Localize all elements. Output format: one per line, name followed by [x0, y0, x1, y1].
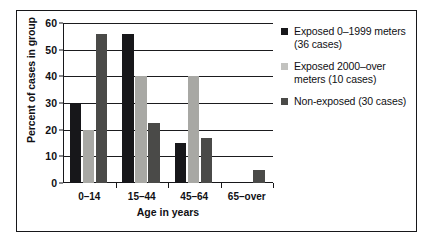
bar — [135, 76, 147, 183]
bar — [253, 170, 265, 183]
x-axis-tick-label: 0–14 — [78, 191, 100, 202]
plot-area: 0102030405060 0–1415–4445–6465–over — [63, 23, 273, 183]
legend-item-label: Exposed 2000–overmeters (10 cases) — [294, 60, 386, 86]
legend-item: Exposed 0–1999 meters(36 cases) — [281, 25, 411, 51]
bar — [122, 34, 134, 183]
bar-group — [63, 23, 116, 183]
legend-swatch-icon — [281, 98, 288, 105]
legend-item-label: Exposed 0–1999 meters(36 cases) — [294, 25, 406, 51]
legend-swatch-icon — [281, 28, 288, 35]
y-axis-tick-label: 40 — [45, 70, 57, 82]
bar — [148, 123, 160, 183]
y-axis-tick-label: 20 — [45, 124, 57, 136]
x-axis-tick-label: 65–over — [228, 191, 266, 202]
y-axis-tick-label: 50 — [45, 44, 57, 56]
legend-item: Exposed 2000–overmeters (10 cases) — [281, 60, 411, 86]
bar — [70, 103, 82, 183]
chart-figure: Percent of cases in group 0102030405060 … — [16, 10, 417, 232]
x-axis-tick-mark — [116, 183, 117, 188]
legend-item: Non-exposed (30 cases) — [281, 95, 411, 108]
x-axis-tick-mark — [221, 183, 222, 188]
bar — [83, 130, 95, 183]
y-axis-title: Percent of cases in group — [25, 5, 37, 155]
y-axis-tick-label: 60 — [45, 17, 57, 29]
bar-group — [221, 23, 274, 183]
legend-swatch-icon — [281, 63, 288, 70]
bar-group — [168, 23, 221, 183]
bar-group — [116, 23, 169, 183]
bar — [201, 138, 213, 183]
bar — [188, 76, 200, 183]
x-axis-tick-label: 45–64 — [180, 191, 208, 202]
legend-item-label: Non-exposed (30 cases) — [294, 95, 406, 108]
bar — [175, 143, 187, 183]
chart-legend: Exposed 0–1999 meters(36 cases)Exposed 2… — [281, 25, 411, 117]
y-axis-tick-label: 0 — [51, 177, 57, 189]
x-axis-tick-label: 15–44 — [128, 191, 156, 202]
y-axis-tick-label: 10 — [45, 150, 57, 162]
x-axis-tick-mark — [168, 183, 169, 188]
x-axis-tick-mark — [273, 183, 274, 188]
y-axis-tick-label: 30 — [45, 97, 57, 109]
x-axis-title: Age in years — [63, 206, 273, 218]
bar — [96, 34, 108, 183]
